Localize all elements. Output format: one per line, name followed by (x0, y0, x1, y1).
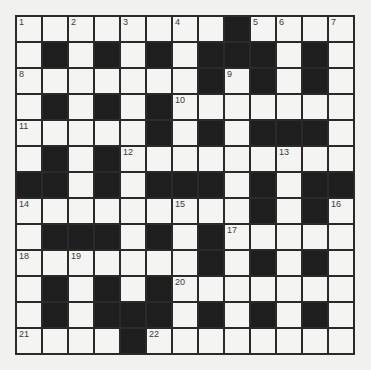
white-cell[interactable] (147, 147, 171, 171)
white-cell[interactable] (277, 225, 301, 249)
white-cell[interactable] (69, 199, 93, 223)
white-cell[interactable] (121, 69, 145, 93)
white-cell[interactable] (199, 147, 223, 171)
white-cell[interactable] (251, 225, 275, 249)
white-cell[interactable] (277, 199, 301, 223)
white-cell[interactable] (17, 277, 41, 301)
white-cell[interactable] (277, 303, 301, 327)
white-cell[interactable]: 16 (329, 199, 353, 223)
white-cell[interactable]: 11 (17, 121, 41, 145)
white-cell[interactable] (121, 251, 145, 275)
white-cell[interactable] (121, 199, 145, 223)
white-cell[interactable]: 22 (147, 329, 171, 353)
white-cell[interactable] (303, 277, 327, 301)
white-cell[interactable] (225, 147, 249, 171)
white-cell[interactable] (147, 251, 171, 275)
white-cell[interactable] (225, 303, 249, 327)
white-cell[interactable] (121, 43, 145, 67)
white-cell[interactable]: 7 (329, 17, 353, 41)
white-cell[interactable]: 17 (225, 225, 249, 249)
white-cell[interactable] (69, 43, 93, 67)
white-cell[interactable] (329, 303, 353, 327)
white-cell[interactable]: 15 (173, 199, 197, 223)
white-cell[interactable] (329, 277, 353, 301)
white-cell[interactable] (17, 43, 41, 67)
white-cell[interactable] (121, 121, 145, 145)
white-cell[interactable] (329, 251, 353, 275)
white-cell[interactable] (17, 225, 41, 249)
white-cell[interactable] (95, 251, 119, 275)
white-cell[interactable] (251, 277, 275, 301)
white-cell[interactable] (95, 199, 119, 223)
white-cell[interactable] (329, 69, 353, 93)
white-cell[interactable] (199, 277, 223, 301)
white-cell[interactable] (173, 329, 197, 353)
white-cell[interactable] (251, 95, 275, 119)
white-cell[interactable] (43, 251, 67, 275)
white-cell[interactable] (121, 225, 145, 249)
white-cell[interactable] (225, 199, 249, 223)
white-cell[interactable] (173, 43, 197, 67)
white-cell[interactable] (277, 95, 301, 119)
white-cell[interactable] (199, 17, 223, 41)
white-cell[interactable] (69, 277, 93, 301)
white-cell[interactable]: 3 (121, 17, 145, 41)
white-cell[interactable]: 18 (17, 251, 41, 275)
white-cell[interactable]: 21 (17, 329, 41, 353)
white-cell[interactable] (69, 69, 93, 93)
white-cell[interactable] (95, 329, 119, 353)
white-cell[interactable] (173, 121, 197, 145)
white-cell[interactable] (277, 43, 301, 67)
white-cell[interactable] (147, 17, 171, 41)
white-cell[interactable] (329, 43, 353, 67)
white-cell[interactable] (173, 225, 197, 249)
white-cell[interactable] (199, 329, 223, 353)
white-cell[interactable] (43, 69, 67, 93)
white-cell[interactable]: 2 (69, 17, 93, 41)
white-cell[interactable] (43, 121, 67, 145)
white-cell[interactable] (43, 199, 67, 223)
white-cell[interactable] (173, 147, 197, 171)
white-cell[interactable] (225, 277, 249, 301)
white-cell[interactable] (121, 173, 145, 197)
white-cell[interactable] (329, 329, 353, 353)
white-cell[interactable] (69, 329, 93, 353)
white-cell[interactable]: 14 (17, 199, 41, 223)
white-cell[interactable] (303, 147, 327, 171)
white-cell[interactable]: 13 (277, 147, 301, 171)
white-cell[interactable]: 20 (173, 277, 197, 301)
white-cell[interactable]: 8 (17, 69, 41, 93)
white-cell[interactable] (69, 303, 93, 327)
white-cell[interactable] (277, 251, 301, 275)
white-cell[interactable] (225, 173, 249, 197)
white-cell[interactable] (121, 95, 145, 119)
white-cell[interactable] (173, 69, 197, 93)
white-cell[interactable] (251, 329, 275, 353)
white-cell[interactable] (17, 95, 41, 119)
white-cell[interactable] (147, 69, 171, 93)
white-cell[interactable] (225, 329, 249, 353)
white-cell[interactable] (69, 147, 93, 171)
white-cell[interactable]: 5 (251, 17, 275, 41)
white-cell[interactable] (43, 17, 67, 41)
white-cell[interactable] (329, 147, 353, 171)
white-cell[interactable] (303, 17, 327, 41)
white-cell[interactable]: 9 (225, 69, 249, 93)
white-cell[interactable] (277, 277, 301, 301)
white-cell[interactable] (277, 173, 301, 197)
white-cell[interactable] (121, 277, 145, 301)
white-cell[interactable] (17, 303, 41, 327)
white-cell[interactable]: 10 (173, 95, 197, 119)
white-cell[interactable] (43, 329, 67, 353)
white-cell[interactable]: 19 (69, 251, 93, 275)
white-cell[interactable] (329, 225, 353, 249)
white-cell[interactable] (251, 147, 275, 171)
white-cell[interactable] (147, 199, 171, 223)
white-cell[interactable]: 6 (277, 17, 301, 41)
white-cell[interactable] (199, 95, 223, 119)
white-cell[interactable]: 1 (17, 17, 41, 41)
white-cell[interactable] (277, 329, 301, 353)
white-cell[interactable] (329, 121, 353, 145)
white-cell[interactable] (69, 121, 93, 145)
white-cell[interactable] (95, 69, 119, 93)
